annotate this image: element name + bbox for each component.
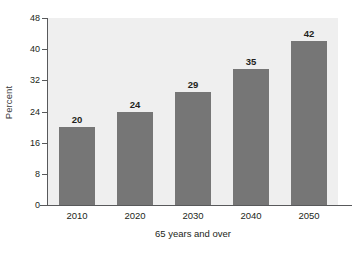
bar-value-label: 24: [115, 99, 155, 110]
bar-value-label: 35: [231, 56, 271, 67]
y-tick-label: 0: [16, 200, 40, 210]
bar: [233, 69, 269, 205]
y-tick-mark: [42, 80, 47, 81]
y-axis-label-text: Percent: [4, 86, 15, 119]
bar-chart: Percent 081624324048 2024293542 20102020…: [0, 0, 361, 253]
x-tick-label: 2030: [168, 210, 218, 221]
bar-value-label: 20: [57, 114, 97, 125]
x-tick-label: 2050: [284, 210, 334, 221]
y-tick-mark: [42, 18, 47, 19]
y-tick-label: 32: [16, 75, 40, 85]
y-tick-label: 16: [16, 138, 40, 148]
bar: [175, 92, 211, 205]
y-tick-mark: [42, 205, 47, 206]
x-tick-label: 2010: [52, 210, 102, 221]
chart-title: [0, 0, 361, 2]
bar: [117, 112, 153, 206]
y-tick-mark: [42, 174, 47, 175]
y-tick-label: 8: [16, 169, 40, 179]
y-axis-line: [47, 18, 48, 206]
y-tick-mark: [42, 143, 47, 144]
y-tick-mark: [42, 112, 47, 113]
y-tick-label: 48: [16, 13, 40, 23]
bar-value-label: 29: [173, 79, 213, 90]
bar: [59, 127, 95, 205]
y-tick-label: 24: [16, 107, 40, 117]
x-tick-label: 2020: [110, 210, 160, 221]
y-tick-label: 40: [16, 44, 40, 54]
bar-value-label: 42: [289, 28, 329, 39]
bar: [291, 41, 327, 205]
x-axis-label: 65 years and over: [48, 228, 338, 239]
x-axis-line: [40, 205, 352, 206]
x-tick-label: 2040: [226, 210, 276, 221]
y-tick-mark: [42, 49, 47, 50]
